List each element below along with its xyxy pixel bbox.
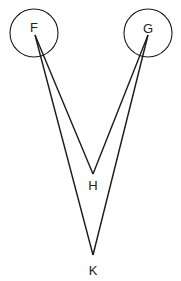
label-f: F <box>30 20 38 35</box>
edge-g-k <box>93 35 148 255</box>
diagram-canvas: F G H K <box>0 0 181 281</box>
edge-g-h <box>93 35 148 174</box>
label-h: H <box>88 178 97 193</box>
label-k: K <box>89 263 98 278</box>
edge-f-h <box>35 35 93 174</box>
label-g: G <box>143 21 153 36</box>
edge-f-k <box>35 35 93 255</box>
